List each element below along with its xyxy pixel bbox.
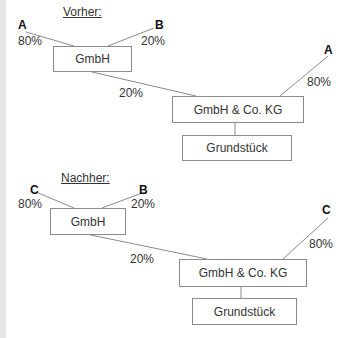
- share-gmbh-kg-after: 20%: [130, 253, 154, 265]
- gmbh-box-before: GmbH: [53, 46, 132, 72]
- property-box-after: Grundstück: [192, 298, 297, 325]
- kg-box-before: GmbH & Co. KG: [172, 96, 304, 123]
- party-c-kg-after: C: [322, 204, 331, 216]
- line-gmbh-kg-before: [92, 72, 196, 96]
- share-c-gmbh-after: 80%: [18, 198, 42, 210]
- party-a-kg-before: A: [324, 44, 333, 56]
- share-a-kg-before: 80%: [307, 76, 331, 88]
- kg-label-before: GmbH & Co. KG: [194, 103, 283, 117]
- party-a-before: A: [18, 19, 27, 31]
- property-box-before: Grundstück: [182, 135, 292, 161]
- share-gmbh-kg-before: 20%: [119, 87, 143, 99]
- kg-box-after: GmbH & Co. KG: [179, 259, 307, 287]
- party-b-after: B: [139, 184, 148, 196]
- share-a-gmbh-before: 80%: [18, 35, 42, 47]
- connector-lines: [0, 0, 344, 338]
- gmbh-box-after: GmbH: [50, 208, 126, 235]
- share-c-kg-after: 80%: [309, 238, 333, 250]
- gmbh-label-before: GmbH: [75, 52, 110, 66]
- property-label-before: Grundstück: [206, 141, 267, 155]
- property-label-after: Grundstück: [214, 305, 275, 319]
- party-c-after: C: [30, 184, 39, 196]
- kg-label-after: GmbH & Co. KG: [199, 266, 288, 280]
- gmbh-label-after: GmbH: [71, 215, 106, 229]
- share-b-gmbh-after: 20%: [131, 198, 155, 210]
- party-b-before: B: [155, 19, 164, 31]
- heading-after: Nachher:: [61, 172, 110, 184]
- share-b-gmbh-before: 20%: [141, 35, 165, 47]
- heading-before: Vorher:: [63, 6, 102, 18]
